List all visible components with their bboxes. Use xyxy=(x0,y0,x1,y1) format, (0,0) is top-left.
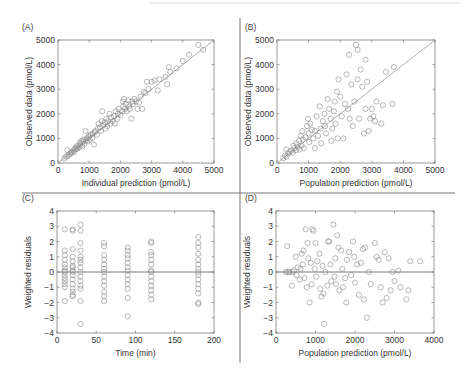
data-point xyxy=(319,141,324,146)
panel-c: 050100150200−4−3−2−101234Time (min)Weigh… xyxy=(22,193,221,358)
x-tick-label: 3000 xyxy=(142,165,161,175)
data-point xyxy=(102,244,107,249)
data-point xyxy=(308,260,313,265)
x-axis-label: Individual prediction (pmol/L) xyxy=(82,178,191,188)
data-point xyxy=(314,114,319,119)
x-tick-label: 100 xyxy=(128,335,142,345)
data-point xyxy=(352,254,357,259)
data-point xyxy=(301,248,306,253)
y-tick-label: 4 xyxy=(49,206,54,216)
data-point xyxy=(322,321,327,326)
x-tick-label: 0 xyxy=(56,165,61,175)
data-point xyxy=(339,114,344,119)
data-point xyxy=(149,250,154,255)
y-axis-label: Observed data (pmol/L) xyxy=(24,57,34,146)
data-point xyxy=(313,240,318,245)
y-tick-label: −2 xyxy=(44,298,54,308)
figure-canvas: 0100020003000400050000100020003000400050… xyxy=(0,0,469,380)
data-point xyxy=(152,78,157,83)
data-point xyxy=(312,128,317,133)
data-point xyxy=(317,251,322,256)
data-point xyxy=(309,282,314,287)
data-point xyxy=(155,88,160,93)
data-point xyxy=(78,248,83,253)
data-point xyxy=(83,128,88,133)
data-point xyxy=(380,300,385,305)
data-point xyxy=(91,142,96,147)
data-point xyxy=(350,239,355,244)
data-point xyxy=(344,72,349,77)
data-point xyxy=(307,300,312,305)
data-point xyxy=(329,279,334,284)
data-point xyxy=(335,233,340,238)
panel-label: (B) xyxy=(245,22,257,32)
data-point xyxy=(317,104,322,109)
data-point xyxy=(378,285,383,290)
data-point xyxy=(353,42,358,47)
data-point xyxy=(315,259,320,264)
data-point xyxy=(344,300,349,305)
y-tick-label: 3 xyxy=(49,221,54,231)
data-point xyxy=(372,240,377,245)
data-point xyxy=(166,65,171,70)
data-point xyxy=(408,259,413,264)
data-point xyxy=(340,266,345,271)
data-point xyxy=(168,69,173,74)
y-tick-label: 0 xyxy=(269,158,274,168)
data-point xyxy=(309,127,314,132)
y-axis-label: Weighted residuals xyxy=(23,236,33,308)
y-tick-label: 2 xyxy=(268,237,273,247)
x-tick-label: 3000 xyxy=(385,335,404,345)
data-point xyxy=(404,297,409,302)
data-point xyxy=(100,109,105,114)
data-point xyxy=(78,321,83,326)
y-tick-label: −3 xyxy=(263,313,273,323)
y-tick-label: 2000 xyxy=(36,109,55,119)
data-point xyxy=(62,298,67,303)
data-point xyxy=(78,298,83,303)
y-tick-label: 1000 xyxy=(36,133,55,143)
y-tick-label: 2000 xyxy=(255,109,274,119)
x-tick-label: 4000 xyxy=(173,165,192,175)
panel-a: 0100020003000400050000100020003000400050… xyxy=(22,22,224,188)
y-tick-label: −1 xyxy=(263,282,273,292)
data-point xyxy=(343,276,348,281)
x-tick-label: 5000 xyxy=(205,165,224,175)
data-point xyxy=(336,245,341,250)
data-point xyxy=(314,274,319,279)
data-point xyxy=(125,245,130,250)
data-point xyxy=(398,285,403,290)
x-tick-label: 50 xyxy=(92,335,102,345)
data-point xyxy=(323,131,328,136)
data-point xyxy=(141,89,146,94)
panel-label: (C) xyxy=(22,193,34,203)
x-tick-label: 0 xyxy=(275,165,280,175)
data-point xyxy=(165,82,170,87)
y-tick-label: −2 xyxy=(263,298,273,308)
x-tick-label: 200 xyxy=(207,335,221,345)
x-tick-label: 2000 xyxy=(346,335,365,345)
data-point xyxy=(78,222,83,227)
data-point xyxy=(382,250,387,255)
data-point xyxy=(327,106,332,111)
x-tick-label: 1000 xyxy=(80,165,99,175)
data-point xyxy=(299,251,304,256)
data-point xyxy=(363,57,368,62)
data-point xyxy=(339,248,344,253)
data-point xyxy=(320,263,325,268)
data-point xyxy=(358,67,363,72)
data-point xyxy=(125,295,130,300)
data-point xyxy=(311,136,316,141)
y-axis-label: Weighted residuals xyxy=(242,236,252,308)
data-point xyxy=(325,96,330,101)
data-point xyxy=(312,266,317,271)
data-point xyxy=(303,227,308,232)
x-tick-label: 4000 xyxy=(425,335,444,345)
data-point xyxy=(62,279,67,284)
y-tick-label: −3 xyxy=(44,313,54,323)
data-point xyxy=(349,273,354,278)
data-point xyxy=(300,262,305,267)
data-point xyxy=(196,251,201,256)
x-tick-label: 1000 xyxy=(306,335,325,345)
x-tick-label: 5000 xyxy=(426,165,445,175)
